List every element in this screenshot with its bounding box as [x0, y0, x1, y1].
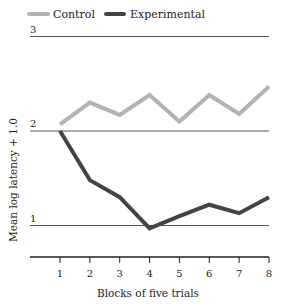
legend-label-experimental: Experimental [130, 8, 206, 21]
y-tick-label: 1 [30, 213, 36, 224]
y-axis-title: Mean log latency + 1.0 [7, 118, 19, 242]
x-tick-label: 8 [266, 268, 272, 279]
x-tick-label: 4 [146, 268, 152, 279]
series-line-experimental [60, 131, 269, 228]
x-tick-label: 3 [117, 268, 123, 279]
x-tick-label: 1 [57, 268, 63, 279]
series-line-control [60, 87, 269, 125]
x-tick-label: 6 [206, 268, 212, 279]
legend-label-control: Control [53, 8, 95, 21]
x-tick-label: 7 [236, 268, 242, 279]
legend: Control Experimental [29, 8, 206, 21]
x-tick-label: 5 [176, 268, 182, 279]
x-tick-label: 2 [87, 268, 93, 279]
x-axis-title: Blocks of five trials [97, 287, 199, 299]
y-tick-label: 2 [30, 118, 36, 129]
line-chart: Control Experimental 123 12345678 Mean l… [0, 0, 283, 305]
y-tick-label: 3 [30, 24, 36, 35]
